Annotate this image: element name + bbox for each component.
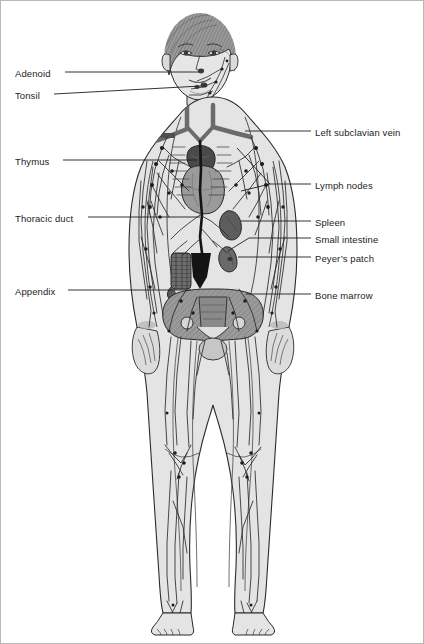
adenoid [198, 69, 204, 74]
diagram-page: AdenoidTonsilThymusThoracic ductAppendix… [0, 0, 424, 644]
label-thymus: Thymus [15, 156, 49, 167]
label-small-intestine: Small intestine [315, 234, 378, 245]
label-appendix: Appendix [15, 286, 55, 297]
label-lymph-nodes: Lymph nodes [315, 180, 373, 191]
feet [151, 613, 274, 635]
label-thoracic-duct: Thoracic duct [15, 213, 73, 224]
lymphatic-system-figure [1, 1, 423, 643]
label-tonsil: Tonsil [15, 90, 40, 101]
head [162, 9, 241, 109]
peyers-patch [227, 257, 232, 261]
leader-line-tonsil [54, 86, 201, 94]
label-adenoid: Adenoid [15, 68, 51, 79]
label-left-subclavian-vein: Left subclavian vein [315, 127, 400, 138]
label-peyers-patch: Peyer’s patch [315, 253, 374, 264]
label-bone-marrow: Bone marrow [315, 290, 373, 301]
label-spleen: Spleen [315, 217, 345, 228]
